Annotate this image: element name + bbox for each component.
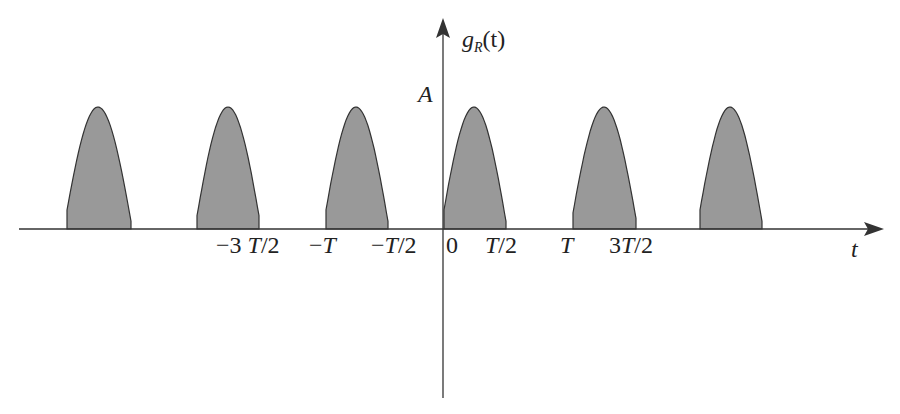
pulse-2 [197, 107, 259, 229]
tick-label-zero: 0 [446, 232, 458, 258]
tick-label-3T-2: 3T/2 [609, 232, 653, 258]
pulse-3 [326, 107, 388, 229]
pulse-1 [67, 107, 131, 229]
pulse-train-diagram: gR(t) A t −3 T/2 −T −T/2 0 T/2 T 3T/2 [0, 0, 900, 414]
tick-label-neg-T-2: −T/2 [371, 232, 417, 258]
tick-label-neg-3T-2: −3 T/2 [216, 232, 280, 258]
pulse-4 [444, 107, 506, 229]
tick-label-T-2: T/2 [485, 232, 517, 258]
pulse-5 [573, 107, 636, 229]
x-axis-label: t [851, 236, 859, 262]
amplitude-label: A [416, 81, 433, 107]
y-axis-label: gR(t) [462, 26, 505, 55]
pulse-group [67, 107, 762, 229]
pulse-6 [700, 107, 762, 229]
tick-label-neg-T: −T [309, 232, 338, 258]
tick-label-T: T [560, 232, 575, 258]
